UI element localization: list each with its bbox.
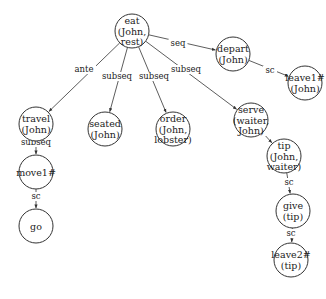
node-label-line: (John,	[118, 26, 147, 37]
edge-label: subseq	[139, 71, 170, 81]
node-leave1: leave1#(John)	[285, 66, 324, 100]
edge-eat-to-depart: seq	[149, 35, 216, 50]
edge-label: subseq	[171, 64, 202, 74]
edge-label: seq	[171, 38, 186, 48]
node-move1: move1#	[16, 155, 56, 189]
node-seated: seated(John)	[88, 112, 122, 146]
node-label-line: (John)	[290, 83, 319, 94]
edge-label: subseq	[102, 71, 133, 81]
node-label-line: (John)	[218, 54, 247, 65]
node-label-line: tip	[278, 140, 291, 151]
node-label-line: waiter)	[267, 161, 302, 172]
node-label-line: rest)	[121, 36, 144, 47]
node-label-line: depart	[217, 43, 249, 54]
node-label-line: leave1#	[285, 72, 324, 83]
node-label-line: lobster)	[154, 134, 191, 145]
edge-label: sc	[286, 228, 295, 238]
edge-label: sc	[284, 177, 293, 187]
node-label-line: (tip)	[281, 260, 301, 271]
node-label-line: seated	[89, 118, 121, 129]
node-serve: serve(waiter,John)	[233, 103, 270, 137]
node-label-line: order	[160, 113, 187, 124]
node-travel: travel(John)	[19, 107, 53, 141]
edge-move1-to-go: sc	[29, 189, 43, 208]
edge-give-to-leave2: sc	[284, 228, 298, 242]
edge-label: ante	[75, 64, 94, 74]
event-graph: seqscantesubseqsubseqsubseqscscscsubseqs…	[0, 0, 326, 299]
edge-depart-to-leave1: sc	[249, 60, 289, 76]
node-label-line: go	[30, 221, 42, 232]
node-label-line: give	[283, 200, 303, 211]
edge-label: sc	[31, 191, 40, 201]
node-label-line: (John,	[159, 124, 188, 135]
node-label-line: move1#	[16, 167, 56, 178]
node-label-line: (tip)	[283, 211, 303, 222]
node-label-line: John)	[237, 125, 263, 136]
node-label-line: serve	[238, 104, 264, 115]
node-label-line: (waiter,	[233, 115, 270, 126]
node-label-line: (John)	[21, 124, 50, 135]
node-eat: eat(John,rest)	[115, 14, 149, 48]
node-label-line: (John)	[90, 129, 119, 140]
node-order: order(John,lobster)	[154, 112, 191, 146]
node-give: give(tip)	[276, 194, 310, 228]
node-label-line: leave2#	[271, 249, 310, 260]
edge-label: sc	[265, 65, 274, 75]
node-go: go	[19, 209, 53, 243]
node-leave2: leave2#(tip)	[271, 243, 310, 277]
node-tip: tip(John,waiter)	[267, 139, 302, 173]
node-label-line: (John,	[270, 151, 299, 162]
node-label-line: travel	[22, 113, 50, 124]
node-depart: depart(John)	[216, 37, 250, 71]
edge-tip-to-give: sc	[282, 173, 296, 193]
nodes-layer: eat(John,rest)depart(John)leave1#(John)t…	[16, 14, 325, 277]
node-label-line: eat	[124, 15, 139, 26]
